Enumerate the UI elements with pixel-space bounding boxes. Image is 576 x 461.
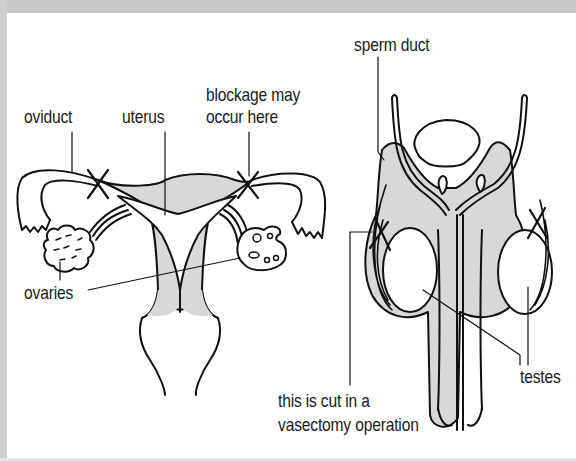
- testes-label: testes: [520, 366, 561, 388]
- left-ovary: [44, 226, 94, 272]
- right-oviduct-inner: [252, 183, 302, 222]
- left-ovarian-ligament: [90, 205, 131, 240]
- uterus-label: uterus: [122, 106, 164, 128]
- female-reproductive-system: [17, 132, 325, 395]
- vasectomy-label-line1: this is cut in a: [278, 390, 370, 412]
- bladder: [414, 120, 479, 167]
- vasectomy-label-line2: vasectomy operation: [278, 414, 419, 436]
- blockage-label-line1: blockage may: [206, 84, 300, 106]
- right-ovary: [237, 227, 286, 271]
- penis-right-edge: [481, 230, 483, 410]
- left-seminal-vesicle: [439, 176, 447, 194]
- right-duct-cap: [522, 95, 527, 98]
- oviduct-label: oviduct: [24, 106, 72, 128]
- right-seminal-vesicle: [477, 175, 485, 192]
- ovaries-label: ovaries: [24, 282, 73, 304]
- sperm-duct-label: sperm duct: [354, 34, 429, 56]
- blockage-label-line2: occur here: [206, 106, 278, 128]
- left-duct-cap: [392, 95, 397, 98]
- right-fimbriae: [292, 222, 322, 238]
- left-fimbriae: [22, 220, 50, 232]
- left-oviduct-inner: [41, 181, 98, 220]
- left-oviduct: [17, 170, 98, 230]
- left-testis: [383, 228, 437, 312]
